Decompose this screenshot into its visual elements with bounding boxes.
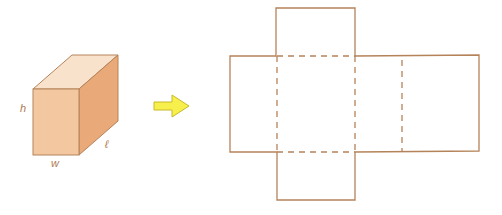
- right-arrow-icon: [154, 95, 189, 117]
- rectangular-prism: h w ℓ: [20, 55, 118, 169]
- prism-net-diagram: h w ℓ: [0, 0, 502, 215]
- label-height: h: [20, 102, 26, 114]
- prism-front-face: [33, 89, 79, 155]
- unfolded-net: [230, 8, 479, 200]
- label-length: ℓ: [104, 138, 109, 150]
- fold-lines: [277, 56, 402, 152]
- label-width: w: [51, 157, 60, 169]
